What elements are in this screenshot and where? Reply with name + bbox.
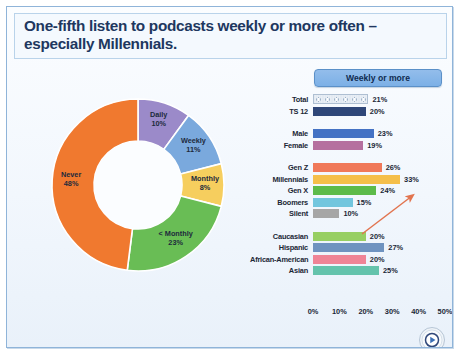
bar-row: Male23% — [250, 128, 450, 139]
bar-fill[interactable] — [313, 209, 339, 218]
bar-track: 26% — [313, 162, 445, 173]
x-axis-tick: 50% — [438, 307, 453, 316]
bar-category-label: Female — [250, 141, 313, 150]
bar-track: 33% — [313, 174, 445, 185]
bar-row: Silent10% — [250, 208, 450, 219]
donut-label-less-than-monthly: < Monthly23% — [150, 230, 202, 248]
bar-row: Caucasian20% — [250, 231, 450, 242]
bar-row: African-American20% — [250, 254, 450, 265]
donut-chart: Daily10% Weekly11% Monthly8% < Monthly23… — [33, 65, 243, 303]
bar-track: 21% — [313, 94, 445, 105]
bar-category-label: Male — [250, 129, 313, 138]
bar-value-label: 26% — [386, 162, 401, 173]
bar-fill[interactable] — [313, 141, 363, 150]
bar-track: 27% — [313, 242, 445, 253]
bar-row: Boomers15% — [250, 197, 450, 208]
x-axis-tick: 30% — [385, 307, 400, 316]
bar-track: 10% — [313, 208, 445, 219]
bar-fill[interactable] — [313, 255, 366, 264]
bar-value-label: 23% — [378, 128, 393, 139]
bar-row: Total21% — [250, 94, 450, 105]
bar-category-label: Boomers — [250, 198, 313, 207]
donut-label-weekly: Weekly11% — [167, 137, 219, 155]
donut-label-never: Never48% — [45, 171, 97, 189]
bar-category-label: Hispanic — [250, 243, 313, 252]
bar-fill[interactable] — [313, 198, 353, 207]
bar-value-label: 10% — [343, 208, 358, 219]
bar-track: 24% — [313, 185, 445, 196]
bar-track: 20% — [313, 231, 445, 242]
bar-fill[interactable] — [313, 163, 382, 172]
title-panel: One-fifth listen to podcasts weekly or m… — [14, 13, 447, 59]
bar-track: 15% — [313, 197, 445, 208]
bar-row: Female19% — [250, 140, 450, 151]
bar-fill[interactable] — [313, 107, 366, 116]
play-button-seal-logo — [419, 327, 445, 348]
bar-row: Hispanic27% — [250, 242, 450, 253]
bar-category-label: Silent — [250, 209, 313, 218]
bar-row: TS 1220% — [250, 106, 450, 117]
bar-value-label: 33% — [404, 174, 419, 185]
x-axis-tick: 0% — [308, 307, 319, 316]
bar-category-label: African-American — [250, 255, 313, 264]
bar-value-label: 20% — [370, 106, 385, 117]
x-axis: 0%10%20%30%40%50% — [313, 307, 450, 319]
page-title: One-fifth listen to podcasts weekly or m… — [24, 17, 444, 53]
bar-fill[interactable] — [313, 266, 379, 275]
bar-fill[interactable] — [313, 94, 368, 104]
bar-fill[interactable] — [313, 243, 384, 252]
bar-fill[interactable] — [313, 129, 374, 138]
bar-value-label: 24% — [380, 185, 395, 196]
bar-value-label: 19% — [367, 140, 382, 151]
donut-label-monthly: Monthly8% — [179, 175, 231, 193]
bar-row: Gen Z26% — [250, 162, 450, 173]
bar-track: 25% — [313, 265, 445, 276]
bar-track: 20% — [313, 106, 445, 117]
bar-fill[interactable] — [313, 232, 366, 241]
bar-track: 23% — [313, 128, 445, 139]
bar-row: Asian25% — [250, 265, 450, 276]
bar-value-label: 21% — [372, 94, 387, 105]
x-axis-tick: 40% — [411, 307, 426, 316]
legend-weekly-or-more-button[interactable]: Weekly or more — [314, 69, 442, 87]
bar-track: 20% — [313, 254, 445, 265]
bar-value-label: 25% — [383, 265, 398, 276]
bar-category-label: Gen X — [250, 186, 313, 195]
bar-category-label: Millennials — [250, 175, 313, 184]
bar-category-label: Asian — [250, 266, 313, 275]
bar-row: Millennials33% — [250, 174, 450, 185]
bar-track: 19% — [313, 140, 445, 151]
bar-fill[interactable] — [313, 175, 400, 184]
bar-value-label: 15% — [357, 197, 372, 208]
bar-chart-panel: Weekly or more Total21%TS 1220%Male23%Fe… — [250, 63, 450, 347]
bar-category-label: Gen Z — [250, 163, 313, 172]
bar-value-label: 20% — [370, 254, 385, 265]
bar-category-label: TS 12 — [250, 107, 313, 116]
x-axis-tick: 20% — [358, 307, 373, 316]
x-axis-tick: 10% — [332, 307, 347, 316]
bar-value-label: 27% — [388, 242, 403, 253]
slide-canvas: One-fifth listen to podcasts weekly or m… — [6, 6, 453, 348]
donut-label-daily: Daily10% — [133, 111, 185, 129]
bar-category-label: Caucasian — [250, 232, 313, 241]
bar-value-label: 20% — [370, 231, 385, 242]
bar-category-label: Total — [250, 95, 313, 104]
bar-fill[interactable] — [313, 186, 376, 195]
bar-row: Gen X24% — [250, 185, 450, 196]
